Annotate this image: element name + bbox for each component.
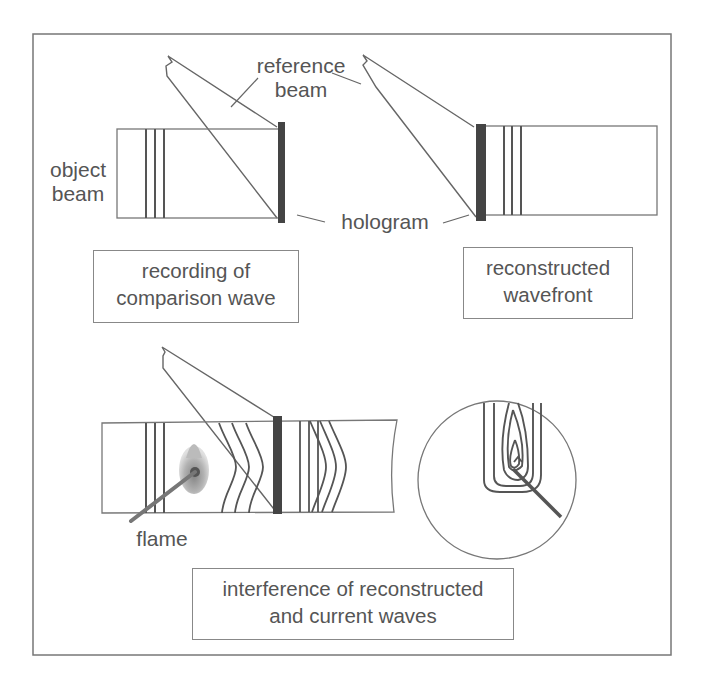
- outer-frame: [33, 34, 671, 655]
- holography-diagram: reference beam object beam hologram flam…: [0, 0, 705, 681]
- caption-recording-line2: comparison wave: [94, 284, 298, 311]
- interference-wavefronts-right: [300, 421, 346, 512]
- object-beam-label: object beam: [38, 158, 118, 206]
- caption-interference: interference of reconstructed and curren…: [192, 568, 514, 640]
- plane-wavefronts-1: [146, 129, 164, 218]
- hologram-plate-3: [273, 416, 282, 514]
- caption-recording: recording of comparison wave: [93, 250, 299, 323]
- caption-interference-line2: and current waves: [193, 602, 513, 629]
- caption-interference-line1: interference of reconstructed: [193, 575, 513, 602]
- panel-reconstruction: [332, 55, 657, 223]
- hologram-pointer-1: [297, 215, 325, 222]
- caption-recording-line1: recording of: [94, 257, 298, 284]
- caption-reconstruction-line1: reconstructed: [464, 254, 632, 281]
- magnified-view: [418, 401, 576, 559]
- hologram-plate-2: [476, 124, 486, 221]
- plane-wavefronts-2: [504, 126, 521, 215]
- hologram-pointer-2: [443, 215, 469, 223]
- reference-label-line1: reference: [246, 54, 356, 78]
- hologram-plate-1: [278, 122, 285, 223]
- hologram-label: hologram: [330, 210, 440, 234]
- reference-beam-label: reference beam: [246, 54, 356, 102]
- flame-label: flame: [130, 527, 194, 551]
- caption-reconstruction: reconstructed wavefront: [463, 247, 633, 319]
- object-beam-1: [117, 129, 279, 218]
- reconstructed-beam: [484, 126, 657, 215]
- caption-reconstruction-line2: wavefront: [464, 281, 632, 308]
- object-label-line1: object: [38, 158, 118, 182]
- reference-label-line2: beam: [246, 78, 356, 102]
- object-label-line2: beam: [38, 182, 118, 206]
- reference-beam-2: [363, 55, 476, 217]
- reference-beam-3: [162, 347, 277, 513]
- flame-tip: [186, 444, 202, 458]
